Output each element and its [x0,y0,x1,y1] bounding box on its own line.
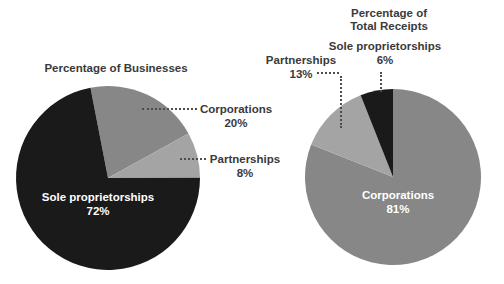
corporations-callout-label: Corporations [200,103,272,115]
pie-chart-total-receipts [305,89,481,265]
sole-proprietorships-callout-pct: 6% [329,53,441,67]
corporations-inside-label-text: Corporations [362,189,434,201]
corporations-callout-pct: 20% [200,116,272,130]
sole-proprietorships-leader-line [380,72,382,92]
partnerships-right-callout-pct: 13% [266,67,336,81]
corporations-inside-pct: 81% [362,202,434,216]
partnerships-right-leader-line-horizontal [317,72,339,74]
partnerships-callout-pct: 8% [210,166,280,180]
partnerships-right-callout-label: Partnerships [266,54,336,66]
sole-proprietorships-callout-label: Sole proprietorships [329,40,441,52]
figure-canvas: Percentage of Businesses Corporations 20… [0,0,504,284]
pie-chart-businesses [16,86,200,270]
sole-proprietorships-label: Sole proprietorships [42,191,154,203]
partnerships-right-callout: Partnerships 13% [266,53,336,81]
partnerships-callout-label: Partnerships [210,153,280,165]
corporations-inside-label: Corporations 81% [362,188,434,216]
sole-proprietorships-callout: Sole proprietorships 6% [329,39,441,67]
right-chart-title: Percentage of Total Receipts [337,7,441,33]
partnerships-leader-line [180,158,206,160]
corporations-callout: Corporations 20% [200,102,272,130]
left-chart-title: Percentage of Businesses [44,61,187,75]
sole-proprietorships-inside-label: Sole proprietorships 72% [42,190,154,218]
corporations-leader-line [142,108,197,110]
partnerships-callout: Partnerships 8% [210,152,280,180]
sole-proprietorships-pct: 72% [42,204,154,218]
partnerships-right-leader-line-vertical [340,76,342,128]
